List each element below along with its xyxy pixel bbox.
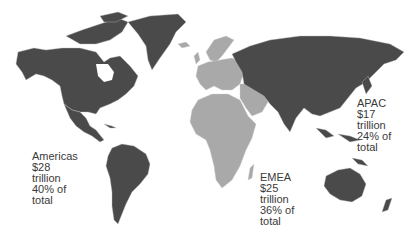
label-emea: EMEA $25 trillion 36% of total bbox=[260, 172, 294, 227]
region-share-suffix: total bbox=[357, 142, 391, 153]
label-apac: APAC $17 trillion 24% of total bbox=[357, 98, 391, 153]
region-share-suffix: total bbox=[32, 195, 78, 206]
region-share-suffix: total bbox=[260, 216, 294, 227]
label-americas: Americas $28 trillion 40% of total bbox=[32, 151, 78, 206]
